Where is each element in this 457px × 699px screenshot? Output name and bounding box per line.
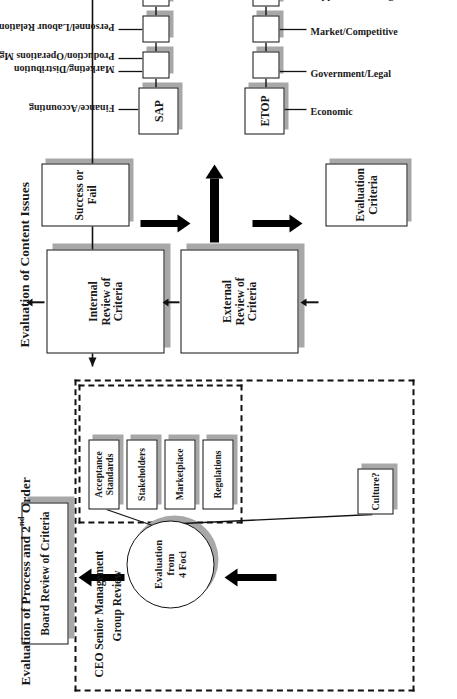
sap-factor-label-0: Finance/Accounting: [28, 102, 114, 113]
internal-review-box-label: Internal Review of Criteria: [86, 275, 125, 327]
external-line2: Review of: [233, 277, 245, 325]
external-review-of-criteria-box: External Review of Criteria: [180, 249, 298, 353]
etop-chain-node-2: [252, 0, 279, 6]
figure-rotated-container: Evaluation of Process and 2nd Order Eval…: [0, 0, 457, 699]
etop-factor-0-text: Economic: [310, 105, 352, 116]
outcome-box-label: Success or Fail: [72, 164, 98, 225]
board-review-line4: Criteria: [38, 511, 50, 551]
criteria-box-label: Evaluation Criteria: [353, 164, 379, 225]
etop-node: ETOP: [244, 87, 284, 134]
etop-factor-label-1: Government/Legal: [310, 67, 391, 78]
sap-factor-2-text: Production/Operations Mgt.: [0, 50, 114, 61]
etop-to-external-arrow: [252, 213, 302, 233]
etop-factor-label-0: Economic: [310, 105, 352, 116]
hub-line3: 4 Foci: [176, 550, 187, 577]
evaluation-from-4-foci-circle: Evaluation from 4 Foci: [126, 520, 214, 608]
culture-box: Culture?: [357, 468, 393, 514]
sap-factor-label-3: Personnel/Labour Relations: [0, 21, 114, 32]
sap-to-internal-arrow: [140, 213, 190, 233]
external-line3: Criteria: [245, 281, 257, 321]
ceo-subtitle-line2: Group Review: [110, 570, 122, 641]
foci-0-line2: Standards: [104, 453, 114, 495]
internal-line2: Review of: [99, 277, 111, 325]
foci-box-3-label: Regulations: [212, 448, 223, 500]
etop-factor-label-2: Market/Competitive: [310, 25, 397, 36]
board-review-line1: Board: [38, 604, 50, 635]
sap-factor-label-1: Marketing/Distribution: [13, 63, 114, 74]
success-or-fail-box: Success or Fail: [41, 163, 129, 226]
section-title-content-text: Evaluation of Content Issues: [16, 182, 31, 347]
foci-box-0-label: Acceptance Standards: [93, 440, 114, 508]
foci-box-stakeholders: Stakeholders: [126, 439, 157, 509]
foci-box-marketplace: Marketplace: [164, 439, 195, 509]
evaluation-criteria-box: Evaluation Criteria: [325, 163, 407, 226]
sap-factor-1-text: Marketing/Distribution: [13, 63, 114, 74]
ceo-subtitle-line1-text: CEO Senior Management: [92, 550, 104, 677]
ceo-subtitle-line2-text: Group Review: [110, 570, 122, 641]
external-line1: External: [220, 280, 232, 323]
sap-chain-node-0: [142, 51, 169, 78]
section-title-process-text: Evaluation of Process and 2nd Order: [17, 477, 32, 685]
foci-0-line1: Acceptance: [93, 451, 103, 497]
etop-factor-1-text: Government/Legal: [310, 67, 391, 78]
hub-circle-label: Evaluation from 4 Foci: [152, 540, 188, 589]
sap-node-label: SAP: [152, 98, 165, 124]
sap-factor-0-text: Finance/Accounting: [28, 102, 114, 113]
internal-line1: Internal: [86, 281, 98, 321]
section-title-process: Evaluation of Process and 2nd Order: [16, 477, 33, 685]
board-review-line2: Review: [38, 566, 50, 602]
etop-factor-2-text: Market/Competitive: [310, 25, 397, 36]
sap-factor-label-2: Production/Operations Mgt.: [0, 50, 114, 61]
external-to-internal-arrow: [162, 296, 179, 308]
main-flow-arrow: [203, 164, 225, 242]
section-title-content: Evaluation of Content Issues: [16, 182, 32, 347]
internal-line3: Criteria: [111, 281, 123, 321]
internal-review-of-criteria-box: Internal Review of Criteria: [46, 249, 164, 353]
sap-factor-3-text: Personnel/Labour Relations: [0, 21, 114, 32]
sap-node: SAP: [138, 87, 178, 134]
sap-chain-node-2: [142, 0, 169, 6]
culture-box-label: Culture?: [369, 470, 380, 512]
etop-chain-node-1: [252, 15, 279, 42]
criteria-line1: Evaluation: [353, 168, 365, 222]
input-to-hub-arrow: [224, 567, 276, 587]
foci-box-regulations: Regulations: [202, 439, 233, 509]
board-review-box-label: Board Review of Criteria: [38, 509, 51, 637]
etop-node-label: ETOP: [258, 93, 271, 128]
board-review-line3: of: [38, 553, 50, 563]
etop-chain-node-0: [252, 51, 279, 78]
hub-line1: Evaluation: [152, 540, 163, 589]
criteria-line2: Criteria: [366, 175, 378, 215]
foci-box-1-label: Stakeholders: [136, 446, 147, 503]
external-review-box-label: External Review of Criteria: [220, 275, 259, 327]
ceo-subtitle-line1: CEO Senior Management: [92, 550, 104, 677]
figure-stage: Evaluation of Process and 2nd Order Eval…: [0, 0, 457, 699]
hub-line2: from: [164, 553, 175, 575]
foci-box-acceptance-standards: Acceptance Standards: [88, 439, 119, 509]
criteria-to-external-arrow: [300, 296, 318, 308]
sap-chain-node-1: [142, 15, 169, 42]
foci-box-2-label: Marketplace: [174, 446, 185, 502]
